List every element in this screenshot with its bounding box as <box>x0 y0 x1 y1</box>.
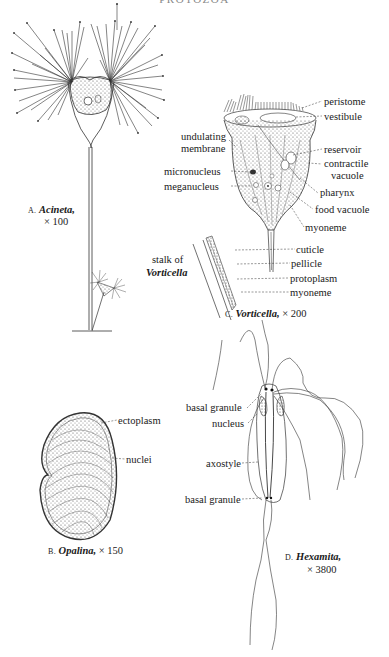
label-reservoir: reservoir <box>324 144 361 155</box>
caption-hexamita-magnification: × 3800 <box>307 563 337 576</box>
caption-letter: B. <box>48 547 56 556</box>
label-cuticle: cuticle <box>296 244 324 255</box>
caption-vorticella: C. Vorticella, × 200 <box>225 307 307 321</box>
opalina-drawing <box>40 413 125 540</box>
label-stalk-of: stalk of <box>152 254 183 265</box>
caption-acineta-magnification: × 100 <box>44 215 68 228</box>
label-myoneme-bell: myoneme <box>305 222 346 233</box>
label-vacuole: vacuole <box>331 170 364 181</box>
caption-letter: D. <box>285 553 293 562</box>
label-basal-granule-top: basal granule <box>186 402 242 413</box>
caption-name: Vorticella, <box>236 308 280 319</box>
label-meganucleus: meganucleus <box>164 181 219 192</box>
label-peristome: peristome <box>324 96 365 107</box>
label-membrane: membrane <box>181 143 225 154</box>
label-nucleus: nucleus <box>212 418 244 429</box>
label-axostyle: axostyle <box>206 458 241 469</box>
caption-magnification: × 200 <box>282 308 306 319</box>
label-vestibule: vestibule <box>324 111 362 122</box>
caption-letter: C. <box>225 310 233 319</box>
caption-name: Acineta, <box>39 204 75 215</box>
caption-name: Opalina, <box>59 545 97 556</box>
label-pharynx: pharynx <box>320 187 354 198</box>
label-myoneme-stalk: myoneme <box>290 287 331 298</box>
label-nuclei: nuclei <box>126 454 152 465</box>
hexamita-leaders <box>242 393 262 499</box>
label-undulating: undulating <box>181 131 226 142</box>
label-contractile: contractile <box>324 158 368 169</box>
caption-opalina: B. Opalina, × 150 <box>48 544 123 558</box>
acineta-drawing <box>11 3 165 331</box>
caption-name: Hexamita, <box>296 551 341 562</box>
caption-magnification: × 150 <box>99 545 123 556</box>
label-food-vacuole: food vacuole <box>315 204 370 215</box>
label-protoplasm: protoplasm <box>290 273 337 284</box>
caption-hexamita: D. Hexamita, <box>285 550 341 564</box>
label-pellicle: pellicle <box>291 258 322 269</box>
caption-letter: A. <box>28 206 36 215</box>
hexamita-drawing <box>213 320 363 650</box>
label-ectoplasm: ectoplasm <box>118 415 161 426</box>
label-stalk-vorticella: Vorticella <box>146 267 187 278</box>
label-basal-granule-bottom: basal granule <box>185 494 241 505</box>
label-micronucleus: micronucleus <box>164 166 221 177</box>
